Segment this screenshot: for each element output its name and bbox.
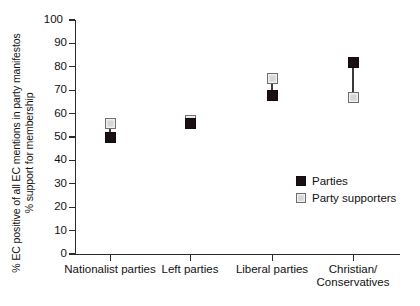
x-label-line-1: Left parties	[162, 263, 219, 275]
x-tick-left-parties	[190, 255, 191, 261]
y-tick-label-90: 90	[37, 37, 67, 48]
point-party-supporters-christian-conservatives	[348, 92, 359, 103]
x-tick-christian-conservatives	[353, 255, 354, 261]
y-tick-label-20: 20	[37, 201, 67, 212]
y-tick-20	[69, 207, 75, 208]
y-tick-label-10: 10	[37, 225, 67, 236]
legend-swatch-open-square-icon	[296, 193, 306, 203]
y-tick-50	[69, 136, 75, 137]
point-parties-christian-conservatives	[348, 57, 359, 68]
y-tick-label-40: 40	[37, 154, 67, 165]
y-tick-40	[69, 160, 75, 161]
x-tick-liberal-parties	[272, 255, 273, 261]
y-tick-label-60: 60	[37, 108, 67, 119]
y-tick-label-70: 70	[37, 84, 67, 95]
x-tick-nationalist-parties	[110, 255, 111, 261]
point-parties-nationalist-parties	[105, 132, 116, 143]
point-parties-left-parties	[185, 118, 196, 129]
legend-label-party-supporters: Party supporters	[312, 192, 396, 204]
point-party-supporters-nationalist-parties	[105, 118, 116, 129]
y-tick-30	[69, 183, 75, 184]
x-axis-line	[75, 254, 400, 255]
x-tick-label-christian-conservatives: Christian/ Conservatives	[298, 263, 408, 289]
y-tick-60	[69, 113, 75, 114]
y-axis-title-line-2: % support for membership	[23, 33, 36, 272]
chart-figure: % EC positive of all EC mentions in part…	[0, 0, 420, 306]
y-tick-80	[69, 66, 75, 67]
y-tick-label-100: 100	[33, 14, 63, 25]
y-tick-90	[69, 43, 75, 44]
point-party-supporters-liberal-parties	[267, 73, 278, 84]
y-tick-100	[69, 19, 75, 20]
point-parties-liberal-parties	[267, 90, 278, 101]
y-tick-label-50: 50	[37, 131, 67, 142]
legend-item-parties: Parties	[296, 173, 396, 188]
legend-label-parties: Parties	[312, 175, 348, 187]
y-tick-10	[69, 230, 75, 231]
legend-swatch-filled-square-icon	[296, 176, 306, 186]
y-tick-label-80: 80	[37, 61, 67, 72]
x-label-line-1: Christian/	[329, 263, 378, 275]
x-label-line-2: Conservatives	[317, 276, 390, 288]
y-tick-0	[69, 253, 75, 254]
chart-legend: Parties Party supporters	[296, 173, 396, 207]
legend-item-party-supporters: Party supporters	[296, 190, 396, 205]
y-tick-label-30: 30	[37, 178, 67, 189]
y-tick-70	[69, 90, 75, 91]
y-tick-label-0: 0	[37, 248, 67, 259]
y-axis-line	[75, 20, 76, 255]
y-axis-title-line-1: % EC positive of all EC mentions in part…	[10, 33, 23, 272]
